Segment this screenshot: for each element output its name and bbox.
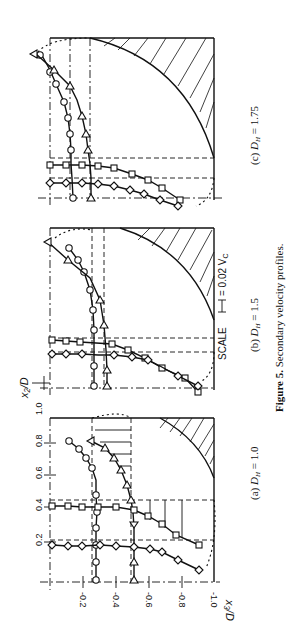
svg-text:-0.8: -0.8	[177, 592, 187, 608]
svg-text:SCALE: SCALE	[217, 327, 228, 360]
panel-captions: (a) DH = 1.0 (b) DH = 1.5 (c) DH = 1.75	[248, 106, 262, 500]
svg-text:0.4: 0.4	[34, 498, 44, 511]
wall-hatching	[160, 418, 214, 464]
square-markers-a	[49, 503, 202, 548]
svg-text:0.2: 0.2	[34, 533, 44, 546]
panel-b: SCALE = 0.02 VC	[40, 228, 229, 395]
x2-axis-label: x₂/D	[18, 377, 30, 399]
caption-panel-c: (c) DH = 1.75	[248, 106, 262, 165]
wall-hatching-c	[104, 38, 214, 128]
svg-text:-0.6: -0.6	[144, 592, 154, 608]
svg-text:0.8: 0.8	[34, 434, 44, 447]
svg-text:-1.0: -1.0	[209, 592, 219, 608]
x3-axis-label: x₃/D	[224, 599, 236, 621]
svg-text:0.6: 0.6	[34, 466, 44, 479]
x2-tick-labels-a: 0.2 0.4 0.6 0.8 1.0	[34, 402, 44, 546]
figure-caption: Figure 5. Secondary velocity profiles.	[273, 243, 285, 412]
square-markers-b	[49, 337, 201, 395]
svg-text:1.0: 1.0	[34, 402, 44, 415]
svg-text:-0.2: -0.2	[78, 592, 88, 608]
wall-hatching-b	[138, 228, 214, 296]
panel-c	[30, 38, 222, 210]
svg-text:= 0.02 VC: = 0.02 VC	[217, 253, 229, 296]
figure-5: 0.2 0.4 0.6 0.8 1.0 -0.2 -0.4 -0.6 -0.8 …	[0, 0, 301, 643]
x3-tick-labels-a: -0.2 -0.4 -0.6 -0.8 -1.0	[78, 592, 219, 608]
panel-a: 0.2 0.4 0.6 0.8 1.0 -0.2 -0.4 -0.6 -0.8 …	[18, 376, 236, 621]
caption-panel-a: (a) DH = 1.0	[248, 446, 262, 500]
diamond-markers-c	[46, 179, 182, 210]
svg-text:-0.4: -0.4	[111, 592, 121, 608]
scale-indicator: SCALE = 0.02 VC	[217, 253, 229, 360]
caption-panel-b: (b) DH = 1.5	[248, 297, 262, 352]
